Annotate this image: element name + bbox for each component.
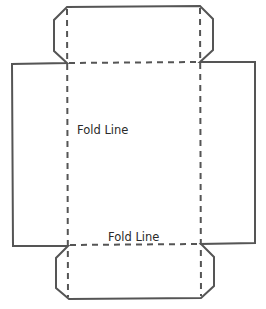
fold-line-right	[200, 8, 201, 296]
fold-line-top	[69, 62, 199, 63]
fold-line-label-center: Fold Line	[77, 123, 128, 137]
cut-outline	[12, 6, 255, 299]
fold-line-left	[67, 9, 68, 297]
fold-line-label-bottom: Fold Line	[108, 230, 159, 244]
box-net-diagram	[0, 0, 266, 309]
fold-line-bottom	[70, 244, 200, 245]
